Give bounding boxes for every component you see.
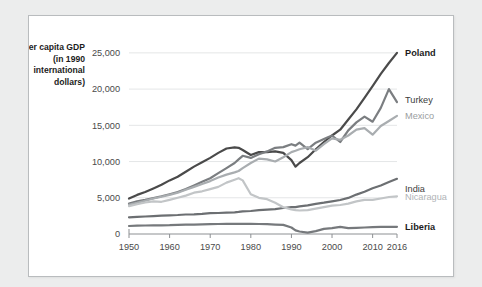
y-tick-label: 5,000 bbox=[97, 193, 120, 203]
y-tick-label: 0 bbox=[115, 229, 120, 239]
y-axis-title-line: dollars) bbox=[54, 77, 85, 87]
y-tick-label: 25,000 bbox=[92, 48, 120, 58]
x-tick-label: 1960 bbox=[159, 242, 179, 252]
y-axis-ticks: 05,00010,00015,00020,00025,000 bbox=[92, 48, 120, 239]
x-tick-label: 2010 bbox=[362, 242, 382, 252]
series-label-turkey: Turkey bbox=[405, 95, 433, 105]
page-background: 05,00010,00015,00020,00025,000 195019601… bbox=[0, 0, 482, 287]
y-tick-label: 15,000 bbox=[92, 121, 120, 131]
series-line-turkey bbox=[129, 89, 397, 204]
x-tick-label: 2016 bbox=[387, 242, 407, 252]
x-tick-label: 2000 bbox=[322, 242, 342, 252]
y-tick-label: 20,000 bbox=[92, 84, 120, 94]
gridlines-group bbox=[129, 53, 397, 198]
x-tick-label: 1950 bbox=[119, 242, 139, 252]
x-tick-label: 1970 bbox=[200, 242, 220, 252]
series-label-mexico: Mexico bbox=[405, 111, 434, 121]
series-lines bbox=[129, 53, 397, 233]
y-axis-title-line: (in 1990 bbox=[53, 54, 85, 64]
series-labels: PolandTurkeyMexicoIndiaNicaraguaLiberia bbox=[405, 48, 448, 232]
y-axis-title-line: international bbox=[33, 65, 85, 75]
x-tick-label: 1980 bbox=[241, 242, 261, 252]
gdp-line-chart: 05,00010,00015,00020,00025,000 195019601… bbox=[29, 16, 453, 276]
y-axis-title-line: Per capita GDP bbox=[29, 42, 85, 52]
y-tick-label: 10,000 bbox=[92, 157, 120, 167]
series-label-liberia: Liberia bbox=[405, 222, 436, 232]
x-axis-ticks: 19501960197019801990200020102016 bbox=[119, 234, 407, 252]
x-tick-label: 1990 bbox=[281, 242, 301, 252]
series-line-liberia bbox=[129, 224, 397, 233]
axes-group bbox=[129, 229, 397, 234]
series-label-poland: Poland bbox=[405, 48, 436, 58]
chart-card: 05,00010,00015,00020,00025,000 195019601… bbox=[28, 15, 454, 277]
series-line-mexico bbox=[129, 116, 397, 205]
series-label-nicaragua: Nicaragua bbox=[405, 192, 448, 202]
y-axis-title: Per capita GDP(in 1990internationaldolla… bbox=[29, 42, 85, 87]
